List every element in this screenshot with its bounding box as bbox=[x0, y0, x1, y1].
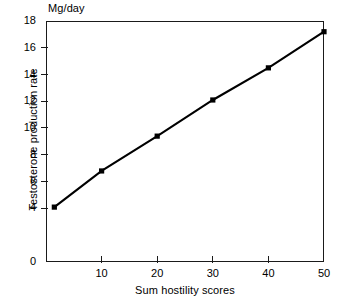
y-tick-label: 14 bbox=[24, 69, 36, 80]
y-tick-mark bbox=[41, 127, 48, 128]
x-tick-label: 10 bbox=[82, 267, 122, 279]
plot-area bbox=[46, 21, 324, 262]
y-tick-label: 0 bbox=[30, 256, 36, 267]
y-tick-label: 10 bbox=[24, 122, 36, 133]
y-tick-mark bbox=[41, 74, 48, 75]
x-tick-mark bbox=[212, 256, 213, 263]
y-axis-unit-label: Mg/day bbox=[48, 2, 85, 15]
x-tick-label: 50 bbox=[304, 267, 344, 279]
x-tick-label: 40 bbox=[248, 267, 288, 279]
x-tick-mark bbox=[101, 256, 102, 263]
y-tick-mark bbox=[41, 208, 48, 209]
y-tick-mark bbox=[41, 181, 48, 182]
x-tick-mark bbox=[268, 256, 269, 263]
y-tick-mark bbox=[41, 154, 48, 155]
x-tick-mark bbox=[157, 256, 158, 263]
y-tick-label: 12 bbox=[24, 95, 36, 106]
x-axis-title: Sum hostility scores bbox=[46, 284, 324, 297]
x-tick-label: 20 bbox=[137, 267, 177, 279]
y-tick-label: 16 bbox=[24, 42, 36, 53]
y-tick-mark bbox=[41, 101, 48, 102]
y-tick-label: 18 bbox=[24, 15, 36, 26]
x-tick-label: 30 bbox=[193, 267, 233, 279]
y-tick-mark bbox=[41, 47, 48, 48]
y-tick-label: 4 bbox=[30, 202, 36, 213]
chart-figure: Mg/day Testosterone production rate 0468… bbox=[0, 0, 346, 305]
y-tick-label: 6 bbox=[30, 176, 36, 187]
y-tick-label: 8 bbox=[30, 149, 36, 160]
